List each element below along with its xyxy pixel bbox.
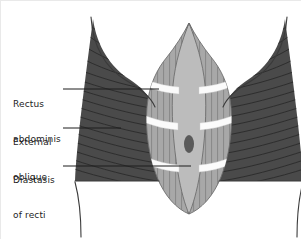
diagram-canvas: Rectus abdominis External oblique Diasta… <box>0 0 301 239</box>
navel-icon <box>184 135 194 153</box>
diastasis-of-recti-label-line2: of recti <box>13 210 55 222</box>
diastasis-of-recti-label-line1: Diastasis <box>13 175 55 187</box>
rectus-abdominis-label-line1: Rectus <box>13 99 61 111</box>
external-oblique-label-line1: External <box>13 137 52 149</box>
diastasis-of-recti-label: Diastasis of recti <box>13 152 55 239</box>
